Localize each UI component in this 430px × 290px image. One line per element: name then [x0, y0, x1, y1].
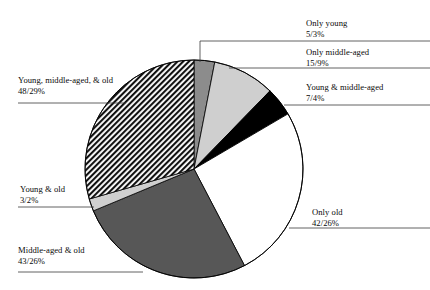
- callout-label-middle-aged-and-old-value: 43/26%: [18, 256, 85, 267]
- callout-label-only-old: Only old 42/26%: [312, 207, 343, 230]
- callout-label-young-and-middle-aged-name: Young & middle-aged: [306, 82, 383, 93]
- callout-label-young-and-middle-aged: Young & middle-aged 7/4%: [306, 82, 383, 105]
- pie-chart-figure: Only young 5/3% Only middle-aged 15/9% Y…: [0, 0, 430, 290]
- callout-label-young-middle-aged-and-old-value: 48/29%: [18, 86, 130, 97]
- callout-label-young-and-old: Young & old 3/2%: [20, 184, 65, 207]
- callout-label-young-middle-aged-and-old-name: Young, middle-aged, & old: [18, 75, 130, 86]
- callout-label-only-young: Only young 5/3%: [306, 18, 347, 41]
- callout-label-middle-aged-and-old: Middle-aged & old 43/26%: [18, 245, 85, 268]
- callout-label-only-old-name: Only old: [312, 207, 343, 218]
- callout-label-only-old-value: 42/26%: [312, 218, 343, 229]
- callout-label-only-middle-aged-name: Only middle-aged: [306, 47, 369, 58]
- callout-label-young-middle-aged-and-old: Young, middle-aged, & old 48/29%: [18, 75, 130, 98]
- callout-label-young-and-middle-aged-value: 7/4%: [306, 93, 383, 104]
- callout-label-only-middle-aged-value: 15/9%: [306, 58, 369, 69]
- callout-label-only-young-name: Only young: [306, 18, 347, 29]
- callout-label-young-and-old-value: 3/2%: [20, 195, 65, 206]
- callout-label-only-middle-aged: Only middle-aged 15/9%: [306, 47, 369, 70]
- callout-label-young-and-old-name: Young & old: [20, 184, 65, 195]
- callout-label-only-young-value: 5/3%: [306, 29, 347, 40]
- callout-label-middle-aged-and-old-name: Middle-aged & old: [18, 245, 85, 256]
